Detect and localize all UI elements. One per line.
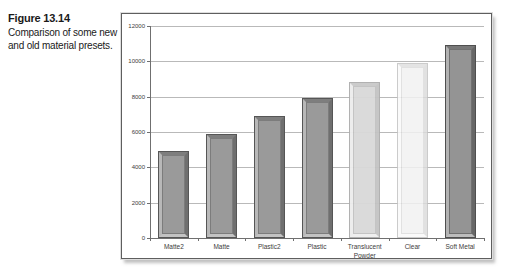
y-tick-label: 10000 bbox=[119, 58, 145, 65]
y-axis-line bbox=[150, 26, 151, 238]
x-tick bbox=[389, 238, 390, 241]
bar bbox=[206, 134, 237, 238]
x-tick-label: Clear bbox=[389, 243, 435, 252]
page: Figure 13.14 Comparison of some new and … bbox=[0, 0, 519, 278]
x-tick-label: Plastic2 bbox=[246, 243, 292, 252]
y-tick-label: 8000 bbox=[119, 94, 145, 101]
figure-caption-block: Figure 13.14 Comparison of some new and … bbox=[8, 12, 120, 52]
gridline bbox=[150, 26, 484, 27]
x-tick bbox=[293, 238, 294, 241]
x-tick-label: Plastic bbox=[294, 243, 340, 252]
bar bbox=[254, 116, 285, 238]
x-tick bbox=[436, 238, 437, 241]
bar-face-line bbox=[258, 120, 281, 234]
x-tick-label: Soft Metal bbox=[437, 243, 483, 252]
bar bbox=[445, 45, 476, 238]
x-tick bbox=[150, 238, 151, 241]
x-tick bbox=[484, 238, 485, 241]
bar-face-line bbox=[210, 138, 233, 234]
gridline bbox=[150, 61, 484, 62]
bar bbox=[302, 98, 333, 238]
bar-face-line bbox=[353, 86, 376, 234]
bar bbox=[397, 63, 428, 238]
bar-face-line bbox=[306, 102, 329, 234]
x-tick bbox=[245, 238, 246, 241]
x-tick bbox=[341, 238, 342, 241]
y-tick-label: 4000 bbox=[119, 164, 145, 171]
x-tick-label: Translucent Powder bbox=[342, 243, 388, 261]
x-tick-label: Matte bbox=[199, 243, 245, 252]
figure-label: Figure 13.14 bbox=[8, 12, 120, 26]
y-tick-label: 12000 bbox=[119, 23, 145, 30]
bar bbox=[349, 82, 380, 238]
x-tick bbox=[198, 238, 199, 241]
y-tick-label: 0 bbox=[119, 235, 145, 242]
y-tick-label: 6000 bbox=[119, 129, 145, 136]
bar-face-line bbox=[162, 155, 185, 234]
x-tick-label: Matte2 bbox=[151, 243, 197, 252]
chart: 020004000600080001000012000Matte2MattePl… bbox=[121, 13, 492, 259]
bar bbox=[158, 151, 189, 238]
figure-caption: Comparison of some new and old material … bbox=[8, 27, 120, 53]
y-tick-label: 2000 bbox=[119, 200, 145, 207]
bar-face-line bbox=[401, 67, 424, 234]
x-axis-line bbox=[150, 238, 484, 239]
plot-area: 020004000600080001000012000Matte2MattePl… bbox=[122, 14, 491, 258]
bar-face-line bbox=[449, 49, 472, 234]
